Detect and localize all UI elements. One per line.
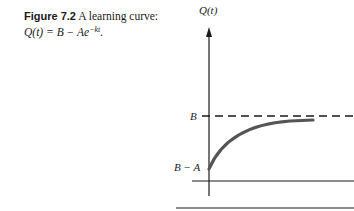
y-axis-arrow-icon — [206, 27, 212, 37]
learning-curve — [209, 120, 313, 169]
intercept-label: B − A — [174, 161, 200, 173]
learning-curve-plot: Q(t) B B − A — [0, 0, 354, 211]
asymptote-label: B — [190, 110, 197, 122]
y-axis-label: Q(t) — [199, 4, 218, 17]
